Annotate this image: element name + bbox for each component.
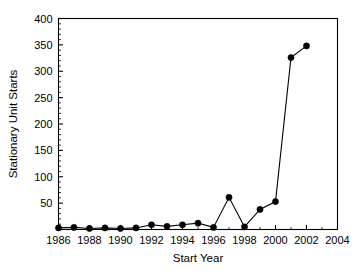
data-point-marker [133, 225, 139, 231]
x-axis-tick-label: 2002 [294, 234, 318, 246]
x-axis-tick-label: 1994 [170, 234, 194, 246]
y-axis-title: Stationary Unit Starts [7, 69, 19, 178]
x-axis-tick-label: 1992 [139, 234, 163, 246]
chart-container: 50100150200250300350400 1986198819901992… [0, 0, 358, 277]
y-axis-tick-label: 50 [40, 197, 52, 209]
data-point-marker [148, 222, 154, 228]
y-axis-tick-label: 300 [34, 65, 52, 77]
x-axis-tick-label: 2004 [325, 234, 349, 246]
x-axis-title: Start Year [173, 252, 224, 264]
data-point-marker [272, 198, 278, 204]
data-point-marker [102, 225, 108, 231]
x-axis-tick-label: 1990 [108, 234, 132, 246]
x-axis-tick-label: 1996 [201, 234, 225, 246]
x-axis-tick-label: 2000 [263, 234, 287, 246]
data-point-marker [257, 206, 263, 212]
y-axis-tick-label: 200 [34, 118, 52, 130]
y-axis-tick-label: 350 [34, 39, 52, 51]
line-chart: 50100150200250300350400 1986198819901992… [0, 0, 358, 277]
data-point-marker [288, 54, 294, 60]
data-point-marker [226, 194, 232, 200]
data-point-marker [179, 222, 185, 228]
data-point-marker [86, 225, 92, 231]
data-point-marker [55, 225, 61, 231]
data-point-marker [210, 224, 216, 230]
y-axis-tick-label: 250 [34, 92, 52, 104]
y-axis-tick-label: 150 [34, 144, 52, 156]
y-axis-tick-label: 100 [34, 171, 52, 183]
x-axis-tick-label: 1988 [77, 234, 101, 246]
y-axis-tick-label: 400 [34, 13, 52, 25]
x-axis-tick-label: 1998 [232, 234, 256, 246]
x-axis-tick-label: 1986 [46, 234, 70, 246]
data-point-marker [71, 224, 77, 230]
data-point-marker [195, 220, 201, 226]
data-point-marker [164, 223, 170, 229]
data-point-marker [241, 224, 247, 230]
data-point-marker [303, 43, 309, 49]
data-point-marker [117, 225, 123, 231]
